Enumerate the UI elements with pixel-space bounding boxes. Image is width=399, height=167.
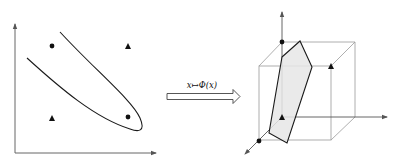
circle-point-bottom-right [126, 115, 131, 120]
feature-space-panel [245, 12, 387, 154]
circle-point-front-bottom-left [257, 139, 262, 144]
mapping-arrow: x↦Φ(x) [167, 80, 240, 104]
decision-boundary-curve [27, 32, 142, 131]
circle-point-back-top-left [280, 40, 285, 45]
circle-point-top-left [50, 44, 55, 49]
separating-plane [269, 41, 312, 143]
triangle-point-top-right [125, 43, 131, 49]
hollow-arrow-icon [167, 90, 240, 104]
kernel-mapping-diagram: x↦Φ(x) [0, 0, 399, 167]
input-space-panel [15, 24, 156, 153]
triangle-point-bottom-left [49, 115, 55, 121]
mapping-label: x↦Φ(x) [187, 80, 217, 90]
